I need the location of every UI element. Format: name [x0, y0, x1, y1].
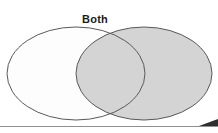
- both-label: Both: [0, 13, 218, 25]
- venn-diagram-page: —— — Both: [0, 0, 218, 133]
- corner-wedge: [199, 119, 218, 126]
